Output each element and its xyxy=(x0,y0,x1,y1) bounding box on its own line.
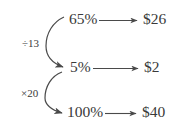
operation-label-divide: ÷13 xyxy=(22,38,39,49)
amount-value-middle: $2 xyxy=(144,59,160,75)
percent-value-bottom: 100% xyxy=(67,104,103,120)
percentage-flow-diagram: 65% $26 5% $2 100% $40 ÷13 ×20 xyxy=(0,0,179,135)
curved-arrow-divide xyxy=(46,17,64,67)
amount-value-top: $26 xyxy=(143,11,166,27)
curved-arrow-multiply xyxy=(45,72,62,113)
operation-label-multiply: ×20 xyxy=(21,88,38,99)
amount-value-bottom: $40 xyxy=(142,104,165,120)
percent-value-middle: 5% xyxy=(70,59,91,75)
percent-value-top: 65% xyxy=(69,11,97,27)
